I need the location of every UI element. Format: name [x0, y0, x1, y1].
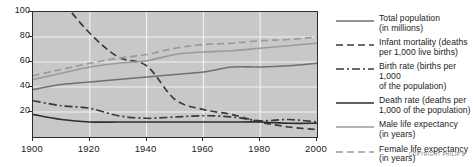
x-axis-tick-label: 1900	[12, 144, 52, 154]
plot-area	[32, 11, 318, 138]
legend-line-swatch	[336, 15, 374, 27]
chart-series-line	[33, 115, 317, 124]
y-axis-tick-label: 100	[4, 6, 30, 15]
y-axis: 20406080100	[0, 0, 30, 167]
chart-series-line	[33, 101, 317, 122]
legend-item: Total population (in millions)	[336, 14, 473, 33]
y-axis-tick-label: 80	[4, 31, 30, 40]
x-axis-tick-mark	[32, 137, 33, 141]
y-axis-tick-label: 40	[4, 81, 30, 90]
legend-item: Death rate (deaths per 1,000 of the popu…	[336, 96, 473, 115]
copyright-notice: Copyright Philip's	[409, 152, 465, 158]
x-axis-tick-label: 2000	[296, 144, 336, 154]
x-axis-tick-mark	[259, 137, 260, 141]
legend-item: Male life expectancy (in years)	[336, 120, 473, 139]
legend-line-swatch	[336, 39, 374, 51]
legend-item-label: Death rate (deaths per 1,000 of the popu…	[379, 96, 471, 115]
legend-line-swatch	[336, 146, 374, 158]
legend-item-label: Male life expectancy (in years)	[379, 120, 458, 139]
legend-item: Infant mortality (deaths per 1,000 live …	[336, 38, 473, 57]
legend-item-label: Birth rate (births per 1,000 of the popu…	[379, 62, 473, 91]
legend-item-label: Total population (in millions)	[379, 14, 440, 33]
chart-series-line	[33, 63, 317, 89]
chart-legend: Total population (in millions)Infant mor…	[336, 14, 473, 167]
plot-inner	[33, 12, 317, 137]
x-axis-tick-label: 1940	[126, 144, 166, 154]
x-axis-tick-label: 1980	[239, 144, 279, 154]
legend-line-swatch	[336, 97, 374, 109]
x-axis-tick-mark	[316, 137, 317, 141]
legend-item: Birth rate (births per 1,000 of the popu…	[336, 62, 473, 91]
x-axis-tick-mark	[202, 137, 203, 141]
x-axis-tick-mark	[146, 137, 147, 141]
x-axis-tick-label: 1920	[69, 144, 109, 154]
legend-line-swatch	[336, 63, 374, 75]
x-axis-tick-mark	[89, 137, 90, 141]
y-axis-tick-label: 60	[4, 56, 30, 65]
chart-lines	[33, 12, 317, 137]
y-axis-tick-label: 20	[4, 106, 30, 115]
legend-line-swatch	[336, 121, 374, 133]
legend-item-label: Infant mortality (deaths per 1,000 live …	[379, 38, 468, 57]
x-axis-tick-label: 1960	[182, 144, 222, 154]
chart-page: 20406080100 190019201940196019802000 Tot…	[0, 0, 473, 167]
